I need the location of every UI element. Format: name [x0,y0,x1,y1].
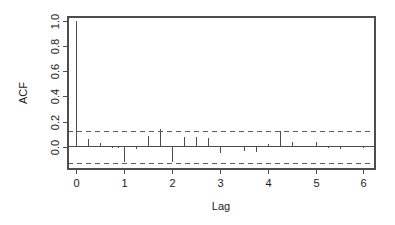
y-axis-tick-label: 0.4 [49,89,61,104]
x-axis-tick-group: 0123456 [73,169,366,189]
plot-panel-background [68,17,375,169]
acf-plot-canvas: 0.00.20.40.60.81.0 0123456 ACF Lag [0,0,395,225]
x-axis-tick-label: 6 [360,177,366,189]
x-axis-tick-label: 3 [217,177,223,189]
x-axis-tick-label: 0 [73,177,79,189]
y-axis-tick-label: 0.8 [49,39,61,54]
acf-plot-figure: 0.00.20.40.60.81.0 0123456 ACF Lag [0,0,395,225]
x-axis-tick-label: 4 [265,177,271,189]
x-axis-title: Lag [212,200,230,212]
y-axis-tick-group: 0.00.20.40.60.81.0 [49,14,68,155]
y-axis-tick-label: 0.0 [49,140,61,155]
y-axis-tick-label: 1.0 [49,14,61,29]
y-axis-tick-label: 0.6 [49,64,61,79]
y-axis-tick-label: 0.2 [49,115,61,130]
x-axis-tick-label: 1 [121,177,127,189]
y-axis-title: ACF [17,82,29,104]
x-axis-tick-label: 5 [313,177,319,189]
x-axis-tick-label: 2 [169,177,175,189]
